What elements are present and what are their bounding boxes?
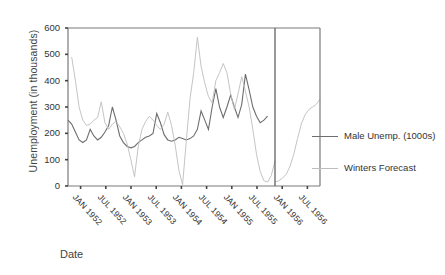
y-tick-label: 300 xyxy=(26,102,60,112)
chart-legend: Male Unemp. (1000s)Winters Forecast xyxy=(312,128,444,192)
y-tick-label: 500 xyxy=(26,49,60,59)
legend-item: Male Unemp. (1000s) xyxy=(312,128,444,160)
legend-label: Winters Forecast xyxy=(344,162,416,173)
plot-frame xyxy=(68,28,320,186)
legend-swatch xyxy=(312,136,338,137)
y-tick-label: 0 xyxy=(26,181,60,191)
legend-label: Male Unemp. (1000s) xyxy=(344,130,435,141)
y-tick-label: 600 xyxy=(26,23,60,33)
y-tick-label: 100 xyxy=(26,155,60,165)
legend-item: Winters Forecast xyxy=(312,160,444,192)
y-tick-label: 200 xyxy=(26,128,60,138)
legend-swatch xyxy=(312,168,338,169)
series-line xyxy=(72,37,275,184)
y-tick-label: 400 xyxy=(26,76,60,86)
chart-figure: Unemployment (in thousands) Date 0100200… xyxy=(0,0,445,275)
